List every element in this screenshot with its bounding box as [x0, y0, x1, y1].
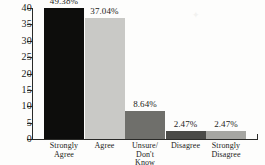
x-axis-category-label: StronglyDisagree	[203, 142, 249, 159]
bar-series: 49.38%37.04%8.64%2.47%2.47%	[33, 8, 258, 139]
y-axis-tick-label: 40	[8, 3, 32, 13]
bar-value-label: 49.38%	[50, 0, 78, 6]
x-axis-category-label: StronglyAgree	[41, 142, 87, 159]
x-axis-line	[32, 139, 258, 140]
y-axis-tick-label: 30	[8, 36, 32, 46]
bar-chart: 0510152025303540 49.38%37.04%8.64%2.47%2…	[0, 0, 265, 165]
y-axis-tick-label: 15	[8, 85, 32, 95]
x-axis-category-label-line: Agree	[41, 151, 87, 160]
scan-artifact: ✦	[192, 10, 201, 21]
y-axis-tick-label: 5	[8, 118, 32, 128]
x-axis-category-labels: StronglyAgreeAgreeUnsure/Don'tKnowDisagr…	[33, 142, 258, 165]
bar	[206, 131, 246, 139]
bar	[44, 8, 84, 139]
y-axis-tick-label: 20	[8, 69, 32, 79]
bar	[85, 18, 125, 139]
bar-value-label: 2.47%	[214, 120, 238, 129]
bar-slot: 37.04%	[85, 8, 125, 139]
bar-slot: 2.47%	[206, 8, 246, 139]
bar-slot: 49.38%	[44, 8, 84, 139]
x-axis-category-label-line: Know	[122, 159, 168, 165]
x-axis-category-label: Disagree	[163, 142, 209, 151]
bar-value-label: 2.47%	[174, 120, 198, 129]
bar-slot: 2.47%	[166, 8, 206, 139]
bar-value-label: 8.64%	[133, 100, 157, 109]
bar	[166, 131, 206, 139]
x-axis-category-label: Agree	[82, 142, 128, 151]
x-axis-category-label-line: Agree	[82, 142, 128, 151]
bar-value-label: 37.04%	[90, 7, 118, 16]
x-axis-category-label-line: Disagree	[203, 151, 249, 160]
bar-slot: 8.64%	[125, 8, 165, 139]
x-axis-category-label: Unsure/Don'tKnow	[122, 142, 168, 165]
y-axis-tick-label: 10	[8, 101, 32, 111]
y-axis-tick-label: 35	[8, 19, 32, 29]
x-axis-category-label-line: Disagree	[163, 142, 209, 151]
bar	[125, 111, 165, 139]
y-axis-tick-label: 0	[8, 134, 32, 144]
y-axis-tick-label: 25	[8, 52, 32, 62]
